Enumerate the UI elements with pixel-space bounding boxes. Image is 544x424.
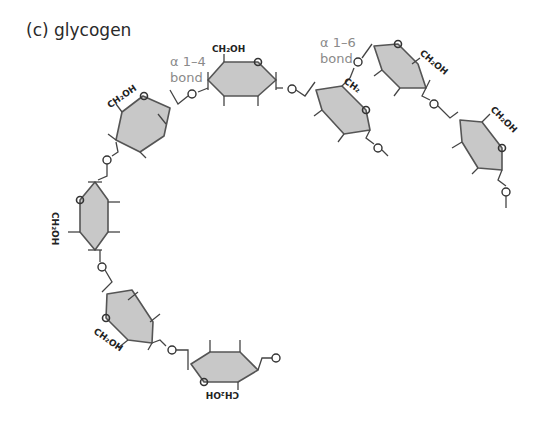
- alpha-1-4-label: α 1–4: [170, 54, 206, 69]
- glucose-residue-5: CH₂OH: [191, 340, 280, 400]
- alpha-1-4-bond-label: bond: [170, 70, 203, 85]
- alpha-1-6-bond-label: bond: [320, 51, 353, 66]
- ch2oh-label: CH₂OH: [418, 48, 450, 77]
- ch2oh-label: CH₂OH: [489, 104, 520, 135]
- glucose-residue-1: CH₂OH: [208, 44, 283, 106]
- glucose-residue-2: CH₂OH: [105, 83, 170, 158]
- ch2oh-label: CH₂OH: [212, 44, 245, 54]
- alpha-1-6-label: α 1–6: [320, 35, 356, 50]
- glucose-residue-7: CH₂OH: [374, 41, 458, 119]
- glucose-residue-4: CH₂OH: [92, 290, 166, 353]
- ch2oh-label: CH₂OH: [206, 390, 239, 400]
- glycogen-diagram: α 1–4 bond α 1–6 bond CH₂OH CH₂OH: [0, 0, 544, 424]
- ch2oh-label: CH₂OH: [50, 212, 60, 245]
- glucose-residue-3: CH₂OH: [50, 182, 120, 250]
- glucose-residue-8: CH₂OH: [452, 104, 519, 208]
